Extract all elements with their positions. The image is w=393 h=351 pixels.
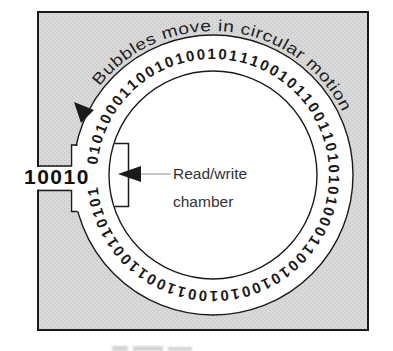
ring-bit: 1 <box>326 175 343 184</box>
cropped-caption <box>112 346 192 351</box>
bubble-memory-diagram: 0101000110010100101110010110011010101000… <box>0 0 393 351</box>
chamber-label-line2: chamber <box>173 193 233 210</box>
ring-bit: 0 <box>196 45 206 63</box>
ring-bit: 1 <box>210 288 218 305</box>
ring-bit: 0 <box>326 164 343 173</box>
chamber-label-line1: Read/write <box>173 165 247 182</box>
ring-bit: 0 <box>218 45 228 63</box>
ring-bit: 0 <box>220 287 230 305</box>
diagram-canvas: 0101000110010100101110010110011010101000… <box>0 0 393 351</box>
ring-bit: 0 <box>198 287 208 305</box>
input-bits-label: 10010 <box>24 165 90 188</box>
ring-bit: 1 <box>207 45 216 62</box>
